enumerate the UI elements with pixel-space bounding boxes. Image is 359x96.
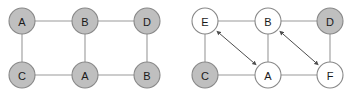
node-circle [134,8,160,34]
graph-node-f[interactable]: F [317,62,343,88]
node-circle [72,62,98,88]
graph-node-c[interactable]: C [9,62,35,88]
node-circle [255,62,281,88]
node-circle [192,8,218,34]
node-circle [9,62,35,88]
nodes-layer: ABDCABEBDCAF [9,8,343,88]
graph-node-a[interactable]: A [9,8,35,34]
graph-node-b[interactable]: B [72,8,98,34]
node-circle [255,8,281,34]
graph-arrow-double-headed [282,33,315,62]
node-circle [317,8,343,34]
graph-node-d[interactable]: D [317,8,343,34]
graph-figure: ABDCABEBDCAF [0,0,359,96]
node-circle [134,62,160,88]
graph-node-b[interactable]: B [134,62,160,88]
graph-node-e[interactable]: E [192,8,218,34]
graph-node-c[interactable]: C [192,62,218,88]
graph-node-a[interactable]: A [255,62,281,88]
node-circle [72,8,98,34]
graph-node-a[interactable]: A [72,62,98,88]
node-circle [9,8,35,34]
graph-canvas: ABDCABEBDCAF [0,0,359,96]
edges-layer [22,21,330,75]
graph-arrow-double-headed [219,33,253,62]
node-circle [317,62,343,88]
node-circle [192,62,218,88]
graph-node-d[interactable]: D [134,8,160,34]
graph-node-b[interactable]: B [255,8,281,34]
